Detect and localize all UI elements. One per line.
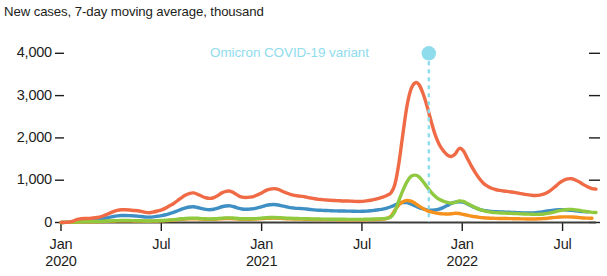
covid-cases-chart: New cases, 7-day moving average, thousan… (0, 0, 607, 276)
x-axis-ticks (61, 223, 563, 232)
y-tick-label: 3,000 (0, 88, 52, 103)
x-tick-label: Jul (126, 236, 196, 253)
y-tick-label: 4,000 (0, 45, 52, 60)
y-axis-ticks-right (589, 53, 600, 222)
y-tick-label: 1,000 (0, 172, 52, 187)
x-tick-label: Jul (528, 236, 598, 253)
x-tick-label: Jan2020 (26, 236, 96, 270)
x-tick-label: Jan2021 (227, 236, 297, 270)
data-series-group (61, 83, 596, 223)
omicron-annotation-label: Omicron COVID-19 variant (210, 46, 369, 60)
plot-area (0, 0, 607, 276)
x-tick-label: Jul (327, 236, 397, 253)
series-line (61, 83, 596, 223)
y-tick-label: 2,000 (0, 130, 52, 145)
y-tick-label: 0 (0, 215, 52, 230)
x-tick-label: Jan2022 (427, 236, 497, 270)
omicron-marker-dot (422, 46, 436, 60)
y-axis-ticks-left (55, 53, 64, 222)
